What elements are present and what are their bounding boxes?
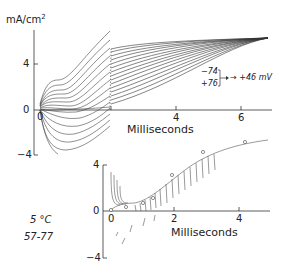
top-xtick-0: 0 xyxy=(37,112,43,122)
legend-target-voltage: → +46 mV xyxy=(230,74,272,82)
top-xtick-4: 4 xyxy=(173,113,179,123)
top-traces-phase1 xyxy=(40,31,110,154)
top-ytick-4: 4 xyxy=(23,59,29,69)
top-x-axis-label: Milliseconds xyxy=(127,124,194,135)
legend-start-voltage: −74 xyxy=(201,68,218,76)
bottom-xtick-4: 4 xyxy=(236,214,242,224)
legend-bracket xyxy=(218,70,226,86)
bottom-plot xyxy=(103,165,270,258)
top-ytick-m4: −4 xyxy=(17,150,32,160)
experiment-id-label: 57-77 xyxy=(24,232,53,242)
bottom-ytick-m4: −4 xyxy=(86,253,101,263)
legend-end-voltage: +76 xyxy=(201,80,218,88)
bottom-ytick-0: 0 xyxy=(93,206,99,216)
top-y-axis-label: mA/cm2 xyxy=(6,14,46,25)
bottom-xtick-0: 0 xyxy=(108,214,114,224)
bottom-x-axis-label: Milliseconds xyxy=(171,227,238,238)
temperature-label: 5 °C xyxy=(30,215,52,225)
top-ytick-0: 0 xyxy=(23,105,29,115)
bottom-ytick-4: 4 xyxy=(93,160,99,170)
top-xtick-6: 6 xyxy=(238,113,244,123)
bottom-xtick-2: 2 xyxy=(171,214,177,224)
